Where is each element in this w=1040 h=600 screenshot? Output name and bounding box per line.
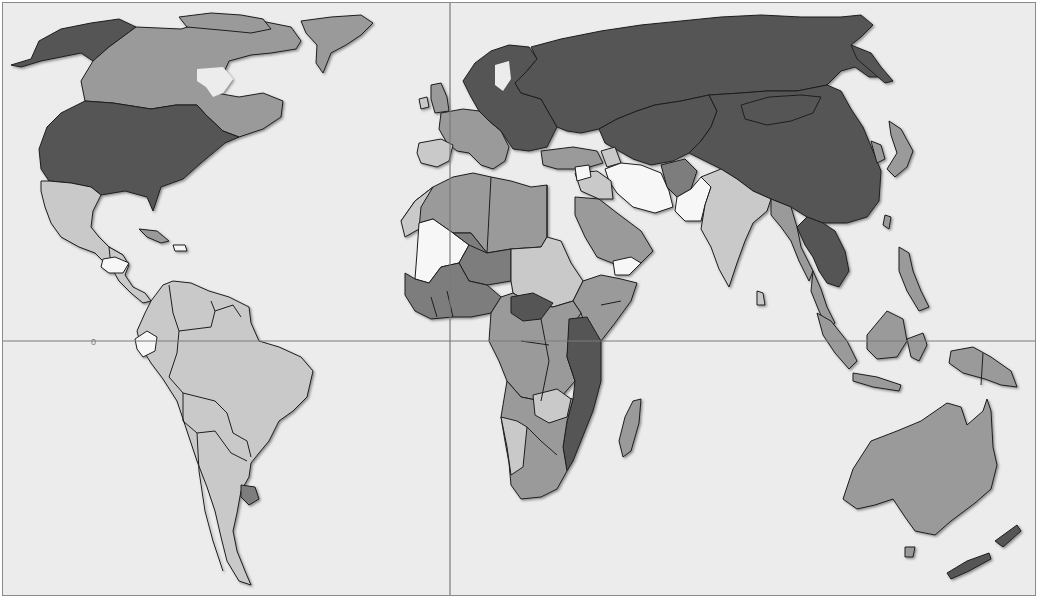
region-borneo[interactable] [867,311,907,359]
map-frame: 0 [2,2,1036,596]
region-tasmania[interactable] [905,547,915,557]
region-turkey[interactable] [541,147,603,169]
region-japan[interactable] [887,121,913,177]
africa-middle-east [401,165,653,499]
south-america [135,281,313,585]
region-uruguay[interactable] [241,485,259,505]
region-greenland[interactable] [301,15,373,73]
region-new-zealand-north[interactable] [995,525,1021,547]
region-south-america[interactable] [137,281,313,585]
world-map: 0 [3,3,1036,596]
north-america [11,13,373,303]
equator-label: 0 [91,337,96,347]
region-philippines[interactable] [899,247,929,311]
region-uk[interactable] [431,83,449,113]
region-hispaniola[interactable] [173,245,187,251]
region-namibia[interactable] [501,417,527,475]
region-ireland[interactable] [419,97,429,109]
region-madagascar[interactable] [619,399,641,457]
region-east-africa[interactable] [563,317,601,471]
region-new-zealand-south[interactable] [947,553,991,579]
region-iberia[interactable] [417,139,453,167]
region-southeast-asia[interactable] [797,217,849,287]
region-sri-lanka[interactable] [757,291,765,305]
region-java[interactable] [853,373,901,391]
oceania [843,399,1021,579]
region-australia[interactable] [843,399,997,535]
region-central-america[interactable] [109,247,151,303]
region-sulawesi[interactable] [907,333,927,361]
region-cuba[interactable] [139,229,169,243]
region-taiwan[interactable] [883,215,891,229]
